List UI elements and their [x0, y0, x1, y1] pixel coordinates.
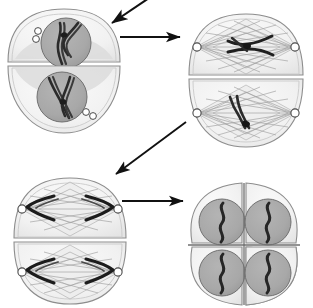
centromere — [60, 99, 67, 105]
centriole-icon — [33, 36, 40, 43]
spindle-pole-centriole — [114, 268, 122, 276]
spindle-pole-centriole — [18, 205, 26, 213]
panel-1-prophase-cell-pair — [8, 9, 120, 133]
centriole-icon — [35, 28, 42, 35]
spindle-pole-centriole — [193, 43, 201, 51]
spindle-pole-centriole — [291, 109, 299, 117]
centriole-icon — [90, 113, 97, 120]
diagram-canvas: Cell division stages diagram Four panel … — [0, 0, 313, 308]
cell-division-figure: Cell division stages diagram Four panel … — [0, 0, 313, 308]
spindle-pole-centriole — [18, 268, 26, 276]
spindle-pole-centriole — [193, 109, 201, 117]
spindle-pole-centriole — [114, 205, 122, 213]
spindle-pole-centriole — [291, 43, 299, 51]
panel-2-metaphase-cell-pair — [189, 14, 303, 147]
centromere — [243, 43, 251, 49]
centriole-icon — [83, 109, 90, 116]
